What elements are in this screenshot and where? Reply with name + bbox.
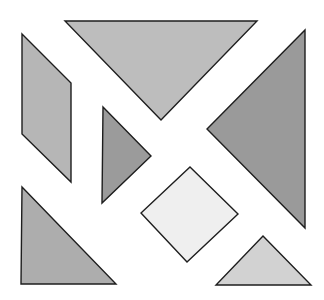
tangram-diagram <box>0 0 324 300</box>
